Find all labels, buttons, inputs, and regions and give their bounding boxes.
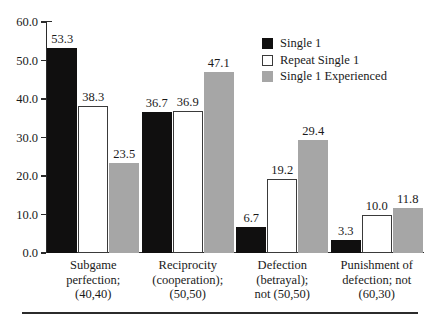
x-axis-category-label: Subgameperfection;(40,40) xyxy=(46,258,141,302)
bar-column: 23.5 xyxy=(109,22,139,253)
bar xyxy=(331,240,361,253)
x-axis-category-label-line: Defection xyxy=(235,258,330,273)
bar-column: 47.1 xyxy=(204,22,234,253)
x-axis-category-label-line: (cooperation); xyxy=(141,273,236,288)
legend-swatch-icon xyxy=(262,71,273,82)
bar xyxy=(109,163,139,253)
x-axis-category-label-line: defection; not xyxy=(330,273,425,288)
x-axis-category-label-line: (betrayal); xyxy=(235,273,330,288)
bar-group: 36.736.947.1 xyxy=(141,22,236,253)
bar-group: 53.338.323.5 xyxy=(46,22,141,253)
bar-column: 36.9 xyxy=(173,22,203,253)
x-axis-category-label: Reciprocity(cooperation);(50,50) xyxy=(141,258,236,302)
legend-swatch-icon xyxy=(262,55,273,66)
x-axis-category-label-line: Reciprocity xyxy=(141,258,236,273)
bar-column: 11.8 xyxy=(393,22,423,253)
bar xyxy=(393,208,423,253)
bar-chart: 60.050.040.030.020.010.00.0 53.338.323.5… xyxy=(0,0,428,325)
bar xyxy=(173,111,203,253)
bottom-rule xyxy=(22,312,418,314)
bar xyxy=(236,227,266,253)
bar-group-bars: 53.338.323.5 xyxy=(46,22,141,253)
x-axis-category-label-line: (40,40) xyxy=(46,287,141,302)
bar-value-label: 10.0 xyxy=(366,199,388,214)
bar-value-label: 36.9 xyxy=(177,95,199,110)
y-axis-tick-label: 0.0 xyxy=(22,244,38,262)
bar xyxy=(267,179,297,253)
bar-column: 36.7 xyxy=(142,22,172,253)
legend-item[interactable]: Single 1 xyxy=(262,36,387,51)
x-axis-category-label: Punishment ofdefection; not(60,30) xyxy=(330,258,425,302)
legend-item[interactable]: Single 1 Experienced xyxy=(262,69,387,84)
x-axis-category-label: Defection(betrayal);not (50,50) xyxy=(235,258,330,302)
legend-swatch-icon xyxy=(262,38,273,49)
bar-column: 53.3 xyxy=(47,22,77,253)
y-axis-tick-label: 50.0 xyxy=(16,52,38,70)
legend-item-label: Repeat Single 1 xyxy=(280,53,359,68)
bar-value-label: 6.7 xyxy=(243,211,259,226)
bar xyxy=(362,215,392,254)
y-axis-tick-label: 10.0 xyxy=(16,206,38,224)
bar-value-label: 29.4 xyxy=(302,124,324,139)
x-axis-category-label-line: perfection; xyxy=(46,273,141,288)
legend: Single 1Repeat Single 1Single 1 Experien… xyxy=(262,36,387,86)
bar-value-label: 11.8 xyxy=(397,192,418,207)
bar-value-label: 36.7 xyxy=(146,96,168,111)
y-axis-tick-label: 40.0 xyxy=(16,90,38,108)
x-axis-category-label-line: not (50,50) xyxy=(235,287,330,302)
legend-item-label: Single 1 Experienced xyxy=(280,69,387,84)
bar-value-label: 3.3 xyxy=(338,224,354,239)
legend-item-label: Single 1 xyxy=(280,36,321,51)
y-axis-tick-label: 20.0 xyxy=(16,167,38,185)
bar-value-label: 47.1 xyxy=(208,56,230,71)
bar-value-label: 19.2 xyxy=(271,163,293,178)
y-axis-tick-label: 30.0 xyxy=(16,129,38,147)
x-axis-category-label-line: (50,50) xyxy=(141,287,236,302)
bar xyxy=(204,72,234,253)
bar xyxy=(298,140,328,253)
legend-item[interactable]: Repeat Single 1 xyxy=(262,53,387,68)
y-axis-tick-label: 60.0 xyxy=(16,13,38,31)
bar xyxy=(78,106,108,253)
x-axis-category-label-line: Punishment of xyxy=(330,258,425,273)
bar xyxy=(47,48,77,253)
bar-value-label: 23.5 xyxy=(113,147,135,162)
bar-group-bars: 36.736.947.1 xyxy=(141,22,236,253)
bar-value-label: 38.3 xyxy=(82,90,104,105)
bar-value-label: 53.3 xyxy=(51,32,73,47)
bar xyxy=(142,112,172,253)
x-axis-category-label-line: (60,30) xyxy=(330,287,425,302)
bar-column: 38.3 xyxy=(78,22,108,253)
x-axis-category-label-line: Subgame xyxy=(46,258,141,273)
